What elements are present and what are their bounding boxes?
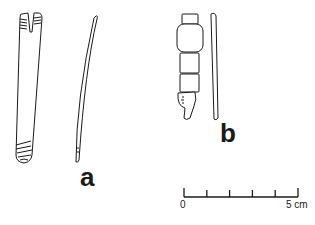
artifact-b-rod	[211, 13, 218, 119]
scale-start-label: 0	[180, 199, 186, 210]
label-a: a	[80, 162, 94, 193]
scale-bar	[184, 188, 298, 197]
artifact-a-tube	[16, 13, 42, 163]
artifact-b-segmented	[177, 14, 203, 120]
scale-end-label: 5 cm	[286, 199, 308, 210]
artifact-drawing	[0, 0, 315, 225]
label-b: b	[220, 118, 236, 149]
artifact-a-rod	[76, 16, 97, 162]
